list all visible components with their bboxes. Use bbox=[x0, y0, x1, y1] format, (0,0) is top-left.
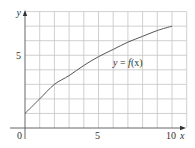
function-graph: y x 0 5 10 5 y = f(x) bbox=[0, 0, 195, 148]
curve-label: y = f(x) bbox=[112, 57, 143, 69]
y-tick-label-5: 5 bbox=[16, 50, 21, 61]
y-axis-label: y bbox=[16, 7, 22, 18]
y-axis-arrow-icon bbox=[23, 10, 27, 16]
x-tick-label-10: 10 bbox=[166, 130, 176, 141]
x-tick-label-5: 5 bbox=[95, 130, 100, 141]
origin-label: 0 bbox=[17, 130, 22, 141]
x-axis-label: x bbox=[179, 130, 185, 141]
